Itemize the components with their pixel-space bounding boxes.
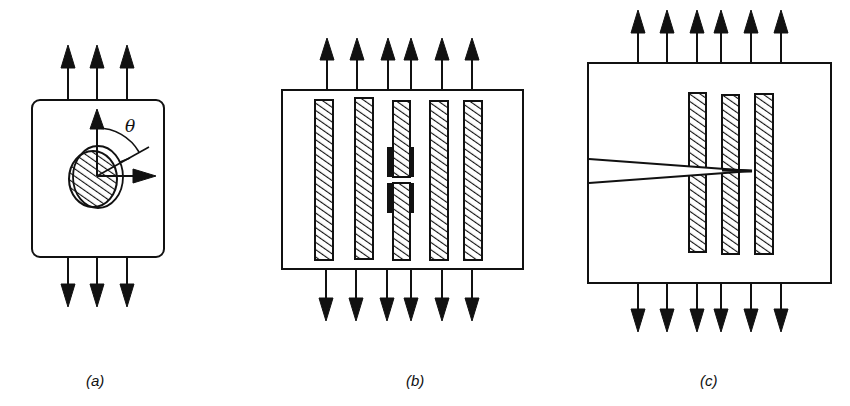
- panel-c: [588, 10, 831, 332]
- panel-label-a: (a): [86, 372, 104, 389]
- panel-b: [282, 38, 523, 321]
- tension-arrows-top: [61, 45, 134, 100]
- panel-label-c: (c): [700, 372, 718, 389]
- fiber: [315, 100, 333, 260]
- fiber: [755, 94, 773, 254]
- fiber: [355, 98, 373, 259]
- tension-arrows-top: [320, 38, 479, 90]
- tension-arrows-top: [631, 10, 788, 63]
- fiber: [430, 101, 448, 260]
- fiber: [722, 95, 739, 254]
- tension-arrows-bottom: [319, 269, 479, 321]
- panel-a: [32, 45, 164, 307]
- fiber: [464, 101, 482, 260]
- composite-fracture-figure: [0, 0, 850, 406]
- tension-arrows-bottom: [61, 257, 134, 307]
- tension-arrows-bottom: [631, 283, 788, 332]
- panel-label-b: (b): [406, 372, 424, 389]
- theta-label: θ: [125, 116, 135, 136]
